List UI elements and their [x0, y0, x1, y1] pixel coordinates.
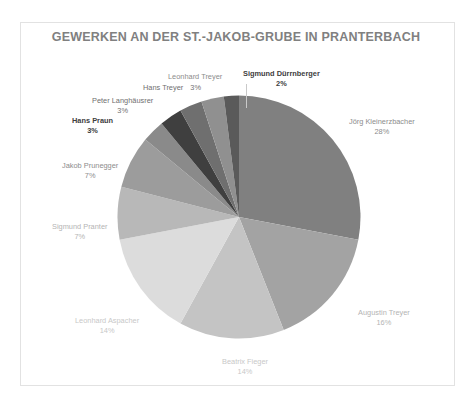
label-name: Peter Langhäusrer — [92, 96, 153, 106]
label-pct: 14% — [222, 367, 268, 377]
label-pct: 16% — [358, 318, 410, 328]
label-pct: 3% — [72, 126, 113, 136]
label-name: Leonhard Aspacher — [75, 316, 139, 326]
pie-chart — [117, 95, 361, 339]
label-name: Sigmund Dürrnberger — [243, 69, 320, 79]
label-leonhard-aspacher: Leonhard Aspacher 14% — [75, 316, 139, 336]
label-pct: 14% — [75, 326, 139, 336]
label-pct: 3% — [92, 106, 153, 116]
label-name: Jörg Kleinerzbacher — [349, 117, 415, 127]
chart-title: GEWERKEN AN DER ST.-JAKOB-GRUBE IN PRANT… — [0, 30, 472, 44]
label-hans-treyer: Hans Treyer 3% — [143, 83, 201, 93]
pie-svg — [117, 95, 361, 339]
label-jakob-prunegger: Jakob Prunegger 7% — [62, 161, 118, 181]
label-name: Jakob Prunegger — [62, 161, 118, 171]
label-pct: 7% — [62, 171, 118, 181]
label-joerg-kleinerzbacher: Jörg Kleinerzbacher 28% — [349, 117, 415, 137]
label-name: Leonhard Treyer — [168, 72, 222, 82]
chart-page: GEWERKEN AN DER ST.-JAKOB-GRUBE IN PRANT… — [0, 0, 472, 411]
label-pct: 28% — [349, 127, 415, 137]
label-pct: 3% — [190, 83, 201, 92]
label-name: Augustin Treyer — [358, 308, 410, 318]
label-sigmund-duerrnberger: Sigmund Dürrnberger 2% — [243, 69, 320, 89]
label-pct: 7% — [52, 232, 107, 242]
pie-slice — [239, 96, 361, 240]
label-name: Hans Praun — [72, 116, 113, 126]
label-name: Hans Treyer — [143, 83, 183, 92]
label-augustin-treyer: Augustin Treyer 16% — [358, 308, 410, 328]
label-sigmund-pranter: Sigmund Pranter 7% — [52, 222, 107, 242]
label-name: Sigmund Pranter — [52, 222, 107, 232]
label-name: Beatrix Fieger — [222, 357, 268, 367]
label-peter-langhaeusrer: Peter Langhäusrer 3% — [92, 96, 153, 116]
label-hans-praun: Hans Praun 3% — [72, 116, 113, 136]
label-pct: 2% — [243, 79, 320, 89]
label-leonhard-treyer: Leonhard Treyer — [168, 72, 222, 82]
label-beatrix-fieger: Beatrix Fieger 14% — [222, 357, 268, 377]
